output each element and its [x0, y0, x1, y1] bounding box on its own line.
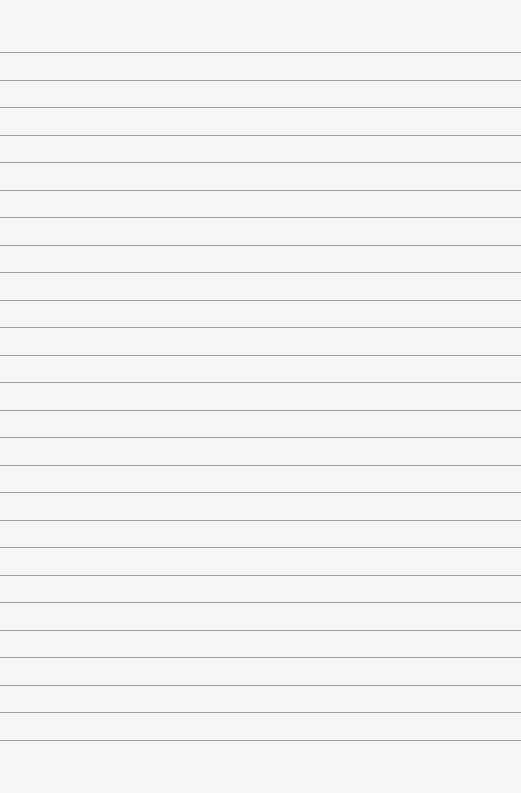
ruled-line	[0, 382, 521, 383]
ruled-line	[0, 602, 521, 603]
ruled-line	[0, 135, 521, 136]
ruled-line	[0, 437, 521, 438]
ruled-line	[0, 575, 521, 576]
ruled-line	[0, 245, 521, 246]
ruled-line	[0, 630, 521, 631]
ruled-line	[0, 685, 521, 686]
ruled-line	[0, 327, 521, 328]
ruled-line	[0, 492, 521, 493]
ruled-line	[0, 162, 521, 163]
ruled-line	[0, 355, 521, 356]
ruled-line	[0, 300, 521, 301]
ruled-line	[0, 272, 521, 273]
ruled-line	[0, 410, 521, 411]
ruled-line	[0, 740, 521, 741]
ruled-line	[0, 547, 521, 548]
ruled-line	[0, 190, 521, 191]
ruled-line	[0, 107, 521, 108]
ruled-line	[0, 657, 521, 658]
ruled-line	[0, 520, 521, 521]
ruled-line	[0, 712, 521, 713]
ruled-paper-sheet	[0, 0, 521, 793]
ruled-line	[0, 80, 521, 81]
ruled-line	[0, 217, 521, 218]
ruled-line	[0, 52, 521, 53]
ruled-line	[0, 465, 521, 466]
